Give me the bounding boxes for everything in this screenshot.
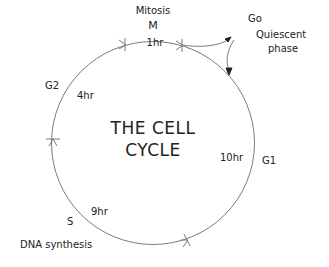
title-line1: THE CELL bbox=[111, 120, 196, 137]
g0-branch bbox=[182, 37, 234, 75]
g2-duration: 4hr bbox=[77, 91, 94, 101]
s-code: S bbox=[67, 217, 73, 227]
g0-exit-path bbox=[182, 39, 229, 46]
tick-s-g2 bbox=[46, 139, 60, 146]
g1-duration: 10hr bbox=[220, 153, 243, 163]
g2-code: G2 bbox=[45, 81, 59, 91]
title-line2: CYCLE bbox=[125, 142, 181, 159]
s-name: DNA synthesis bbox=[20, 240, 92, 250]
m-phase-code: M bbox=[148, 20, 158, 31]
g0-name-line1: Quiescent bbox=[256, 30, 306, 40]
g0-return-path bbox=[227, 40, 234, 71]
g0-name-line2: phase bbox=[268, 44, 298, 54]
m-duration: 1hr bbox=[147, 38, 164, 48]
mitosis-label: Mitosis bbox=[136, 6, 171, 16]
g0-code: Go bbox=[248, 14, 262, 24]
tick-g2-m bbox=[119, 38, 126, 51]
tick-g1-s bbox=[181, 234, 190, 247]
s-duration: 9hr bbox=[91, 207, 108, 217]
g1-code: G1 bbox=[262, 156, 276, 166]
